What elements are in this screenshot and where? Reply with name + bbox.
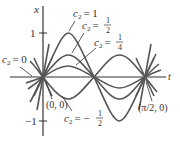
svg-text:c2=: c2=	[94, 36, 111, 50]
svg-text:c2= 0: c2= 0	[2, 53, 27, 67]
svg-text:1: 1	[106, 16, 110, 25]
leader-c2-quarter	[76, 48, 96, 65]
origin-label: (0, 0)	[46, 99, 68, 111]
leader-c2-1	[69, 21, 75, 31]
svg-text:1: 1	[98, 109, 102, 118]
t-axis-label: t	[168, 71, 171, 82]
half-pi-label: (π/2, 0)	[138, 102, 168, 114]
solution-curves-diagram: x t 1 −1 (0, 0) (π/2, 0) c2= 1 c2= 1 2 c…	[0, 0, 180, 143]
label-c2-quarter: c2= 1 4	[94, 33, 123, 52]
svg-text:c2= −: c2= −	[64, 112, 90, 126]
label-c2-neg-half: c2= − 1 2	[64, 109, 103, 128]
svg-text:2: 2	[106, 26, 110, 35]
x-axis-label: x	[33, 3, 39, 15]
svg-text:c2=: c2=	[82, 19, 99, 33]
svg-text:4: 4	[118, 43, 122, 52]
label-c2-0: c2= 0	[2, 53, 27, 67]
svg-text:1: 1	[118, 33, 122, 42]
svg-text:2: 2	[98, 119, 102, 128]
leader-c2-0	[20, 67, 32, 76]
label-c2-half: c2= 1 2	[82, 16, 111, 35]
tick-label-1: 1	[30, 27, 36, 39]
tick-label-neg1: −1	[25, 115, 37, 127]
